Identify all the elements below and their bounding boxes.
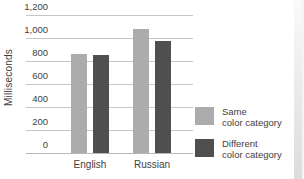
legend-label-different-line1: Different	[222, 138, 258, 149]
bar-russian-same-color-category	[133, 29, 149, 153]
legend-label-different: Different color category	[222, 139, 282, 160]
legend-label-same-line1: Same	[222, 106, 247, 117]
y-tick-label-600: 600	[0, 71, 48, 81]
page-edge-highlight	[302, 0, 304, 179]
bar-russian-different-color-category	[155, 41, 171, 153]
page-edge-shading	[294, 0, 302, 179]
y-tick-label-0: 0	[0, 140, 48, 150]
legend-label-different-line2: color category	[222, 149, 282, 160]
gridline-1000	[26, 38, 193, 39]
bar-english-same-color-category	[71, 54, 87, 153]
y-tick-label-800: 800	[0, 48, 48, 58]
y-tick-label-200: 200	[0, 117, 48, 127]
x-axis-label-english: English	[55, 159, 125, 170]
legend: Same color category Different color cate…	[195, 107, 282, 171]
y-tick-label-400: 400	[0, 94, 48, 104]
reaction-time-bar-chart: Milliseconds 02004006008001,0001,200Engl…	[0, 0, 304, 179]
legend-label-same: Same color category	[222, 107, 282, 128]
y-tick-label-1200: 1,200	[0, 2, 48, 12]
legend-swatch-different-icon	[195, 139, 214, 157]
bar-english-different-color-category	[93, 55, 109, 153]
legend-item-different-color-category: Different color category	[195, 139, 282, 160]
legend-label-same-line2: color category	[222, 117, 282, 128]
x-axis-baseline	[26, 153, 193, 154]
legend-swatch-same-icon	[195, 107, 214, 125]
gridline-1200	[26, 15, 193, 16]
legend-item-same-color-category: Same color category	[195, 107, 282, 128]
y-tick-label-1000: 1,000	[0, 25, 48, 35]
x-axis-label-russian: Russian	[117, 159, 187, 170]
